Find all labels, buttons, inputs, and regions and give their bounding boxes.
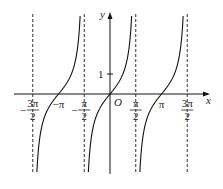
- y-axis-label: y: [99, 8, 105, 20]
- tangent-graph: xyO13π2−−ππ2−π2π3π2: [0, 0, 223, 189]
- minus-sign: −: [71, 104, 77, 116]
- x-tick-label-denominator: 2: [81, 110, 87, 122]
- x-tick-label-denominator: 2: [133, 110, 139, 122]
- origin-label: O: [114, 96, 122, 108]
- y-tick-label: 1: [98, 68, 104, 80]
- x-tick-label-numerator: 3π: [182, 97, 194, 109]
- x-tick-label-denominator: 2: [184, 110, 190, 122]
- x-tick-label-denominator: 2: [30, 110, 36, 122]
- x-tick-label: π: [159, 98, 165, 110]
- x-axis-label: x: [205, 94, 211, 106]
- x-tick-label-numerator: π: [133, 97, 139, 109]
- minus-sign: −: [20, 104, 26, 116]
- x-tick-label-numerator: 3π: [27, 97, 39, 109]
- x-tick-label-numerator: π: [81, 97, 87, 109]
- y-axis-arrow-icon: [108, 12, 113, 19]
